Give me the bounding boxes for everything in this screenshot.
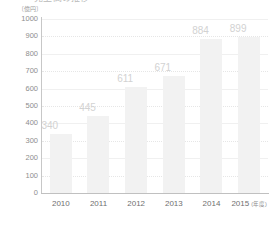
y-tick-label: 100 bbox=[25, 172, 38, 180]
bar-slot: 6112012 bbox=[117, 19, 155, 193]
bar-slot: 6712013 bbox=[155, 19, 193, 193]
bar-chart-figure: 売上高の推移 〔億円〕 0100200300400500600700800900… bbox=[0, 0, 272, 225]
bar-value-label: 445 bbox=[79, 103, 96, 113]
x-tick-label: 2012 bbox=[127, 200, 145, 208]
bar-slot: 4452011 bbox=[80, 19, 118, 193]
bar bbox=[238, 37, 260, 193]
bar bbox=[50, 134, 72, 193]
bar-value-label: 611 bbox=[117, 74, 133, 84]
y-axis-unit-label: 〔億円〕 bbox=[18, 4, 42, 13]
bar bbox=[163, 76, 185, 193]
y-tick-label: 500 bbox=[25, 102, 38, 110]
x-axis-line bbox=[41, 193, 269, 194]
bar-value-label: 884 bbox=[192, 26, 209, 36]
bar bbox=[125, 87, 147, 193]
x-tick-label: 2013 bbox=[165, 200, 183, 208]
x-axis-unit-label: (年度) bbox=[251, 201, 267, 207]
x-tick-label: 2011 bbox=[90, 200, 107, 208]
x-tick-label: 2014 bbox=[203, 200, 221, 208]
bar-value-label: 671 bbox=[154, 63, 171, 73]
y-tick-label: 400 bbox=[25, 120, 38, 128]
y-tick-label: 200 bbox=[25, 154, 38, 162]
x-tick-label: 2010 bbox=[52, 200, 70, 208]
y-tick-label: 300 bbox=[25, 137, 38, 145]
bar-value-label: 899 bbox=[230, 24, 247, 34]
bar-slot: 8992015(年度) bbox=[230, 19, 268, 193]
chart-title-text: 売上高の推移 bbox=[34, 0, 90, 3]
y-tick-label: 900 bbox=[25, 33, 38, 41]
y-tick-label: 0 bbox=[34, 189, 38, 197]
y-tick-label: 700 bbox=[25, 67, 38, 75]
y-tick-label: 800 bbox=[25, 50, 38, 58]
bar-slot: 8842014 bbox=[193, 19, 231, 193]
x-tick-label: 2015(年度) bbox=[231, 200, 266, 208]
bar bbox=[87, 116, 109, 193]
bar-slot: 3402010 bbox=[42, 19, 80, 193]
plot-area: 01002003004005006007008009001000 3402010… bbox=[42, 19, 268, 193]
y-tick-label: 600 bbox=[25, 85, 38, 93]
y-tick-label: 1000 bbox=[21, 15, 38, 23]
bar-value-label: 340 bbox=[41, 121, 58, 131]
bar bbox=[200, 39, 222, 193]
